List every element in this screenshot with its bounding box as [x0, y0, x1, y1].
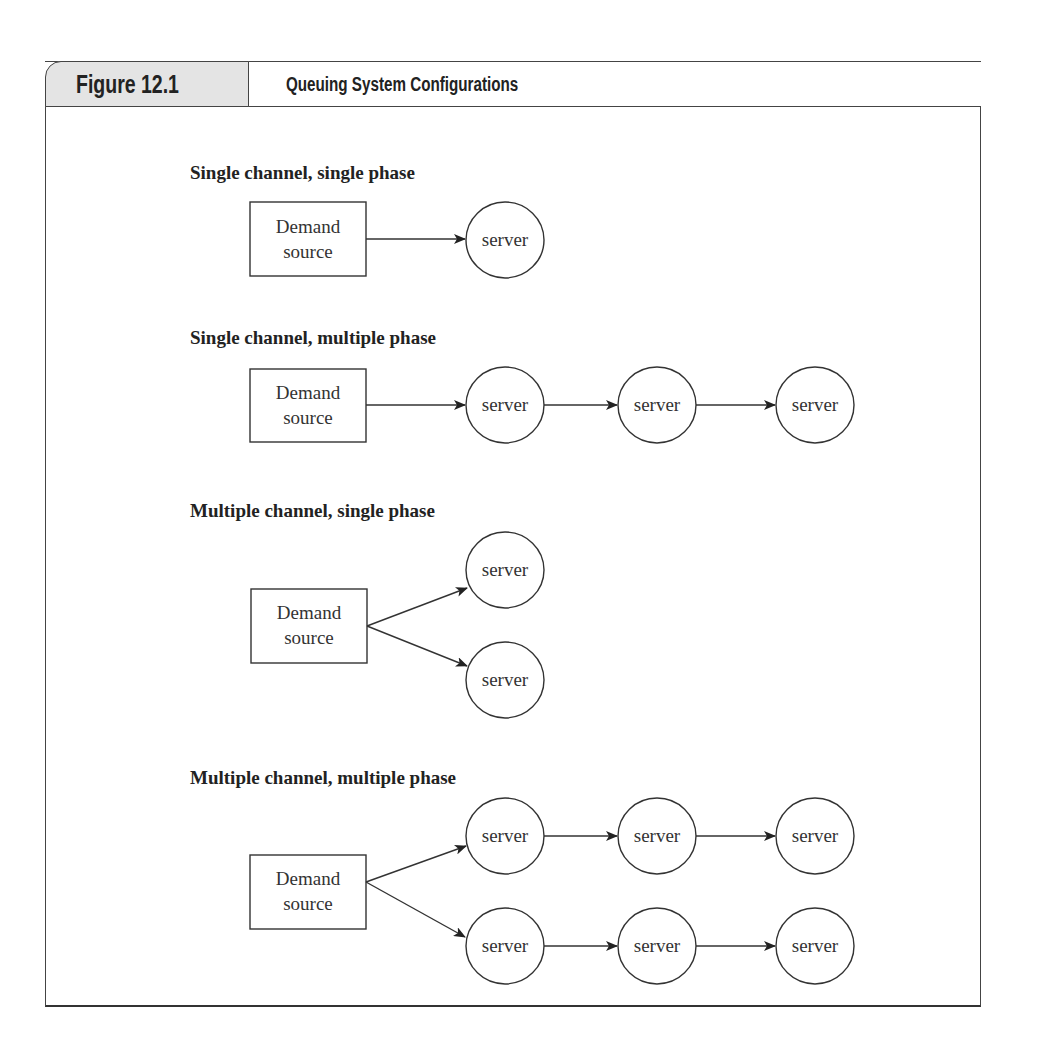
demand-source-box: [250, 369, 366, 442]
demand-source-label-line2: source: [284, 627, 334, 648]
server-label: server: [792, 394, 839, 415]
demand-source-box: [250, 202, 366, 276]
demand-source-label-line1: Demand: [276, 216, 341, 237]
server-label: server: [792, 825, 839, 846]
demand-source-label-line1: Demand: [276, 868, 341, 889]
flow-arrow: [367, 626, 467, 666]
diagram-single-channel-multiple-phase: [250, 367, 854, 443]
server-label: server: [792, 935, 839, 956]
flow-arrow: [366, 882, 465, 937]
server-label: server: [482, 394, 529, 415]
demand-source-box: [250, 855, 366, 929]
flow-arrow: [367, 588, 467, 626]
demand-source-label-line2: source: [283, 893, 333, 914]
diagram-multiple-channel-multiple-phase: [250, 798, 854, 984]
server-label: server: [634, 825, 681, 846]
demand-source-label-line2: source: [283, 241, 333, 262]
flow-arrow: [366, 846, 466, 882]
queuing-diagram: Demand source server Demand source serve…: [0, 0, 1038, 1057]
demand-source-label-line1: Demand: [277, 602, 342, 623]
server-label: server: [482, 229, 529, 250]
server-label: server: [482, 669, 529, 690]
demand-source-label-line1: Demand: [276, 382, 341, 403]
server-label: server: [482, 935, 529, 956]
server-label: server: [634, 394, 681, 415]
server-label: server: [482, 559, 529, 580]
demand-source-box: [251, 589, 367, 663]
demand-source-label-line2: source: [283, 407, 333, 428]
server-label: server: [482, 825, 529, 846]
server-label: server: [634, 935, 681, 956]
